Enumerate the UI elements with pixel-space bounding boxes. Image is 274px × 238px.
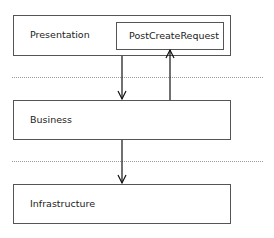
- arrow-down-icon: [118, 56, 126, 99]
- arrows-layer: [0, 0, 274, 238]
- arrow-up-icon: [166, 50, 174, 100]
- arrow-down-icon: [118, 140, 126, 183]
